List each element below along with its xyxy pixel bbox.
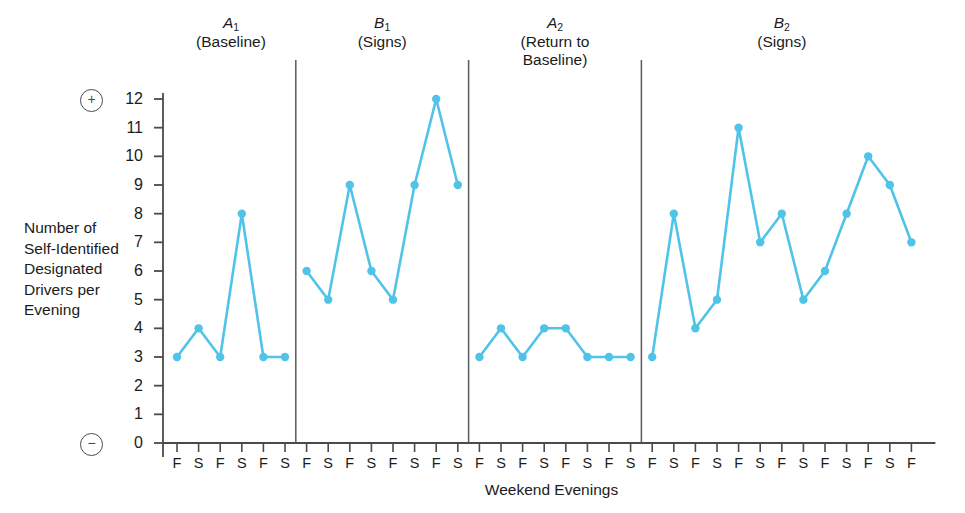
data-point-A2-7 [626, 353, 634, 361]
x-tick-label-20: F [600, 456, 618, 471]
x-tick-label-3: S [233, 456, 251, 471]
data-point-B1-2 [346, 181, 354, 189]
x-tick-label-29: S [794, 456, 812, 471]
x-axis-label: Weekend Evenings [0, 481, 965, 499]
x-tick-label-13: S [449, 456, 467, 471]
data-point-B1-7 [454, 181, 462, 189]
x-tick-label-24: F [686, 456, 704, 471]
x-tick-label-7: S [319, 456, 337, 471]
x-tick-label-6: F [298, 456, 316, 471]
y-tick-label-9: 9 [115, 177, 143, 193]
y-tick-label-1: 1 [115, 406, 143, 422]
y-tick-label-2: 2 [115, 378, 143, 394]
data-point-B1-1 [324, 295, 332, 303]
x-tick-label-33: S [881, 456, 899, 471]
x-tick-label-22: F [643, 456, 661, 471]
x-tick-label-1: S [190, 456, 208, 471]
x-tick-label-18: F [557, 456, 575, 471]
x-tick-label-2: F [211, 456, 229, 471]
data-point-B1-4 [389, 295, 397, 303]
x-tick-label-31: S [838, 456, 856, 471]
data-point-B2-0 [648, 353, 656, 361]
plot-area [0, 0, 965, 513]
x-tick-label-21: S [622, 456, 640, 471]
y-tick-label-10: 10 [115, 148, 143, 164]
y-tick-label-5: 5 [115, 292, 143, 308]
x-tick-label-10: F [384, 456, 402, 471]
x-tick-label-27: S [751, 456, 769, 471]
data-point-A2-4 [562, 324, 570, 332]
y-tick-label-7: 7 [115, 234, 143, 250]
x-tick-label-19: S [578, 456, 596, 471]
x-tick-label-32: F [859, 456, 877, 471]
data-line-A2 [479, 328, 630, 357]
data-point-B2-6 [778, 209, 786, 217]
data-point-A1-0 [173, 353, 181, 361]
data-line-A1 [177, 214, 285, 357]
data-point-B1-6 [432, 95, 440, 103]
x-tick-label-26: F [730, 456, 748, 471]
x-tick-label-8: F [341, 456, 359, 471]
y-tick-label-6: 6 [115, 263, 143, 279]
data-point-B2-4 [734, 123, 742, 131]
y-tick-label-8: 8 [115, 206, 143, 222]
single-subject-abab-line-chart: Number of Self-Identified Designated Dri… [0, 0, 965, 513]
data-point-A2-2 [518, 353, 526, 361]
y-tick-label-12: 12 [115, 91, 143, 107]
x-tick-label-0: F [168, 456, 186, 471]
x-tick-label-11: S [406, 456, 424, 471]
data-point-B2-8 [821, 267, 829, 275]
x-tick-label-12: F [427, 456, 445, 471]
x-tick-label-30: F [816, 456, 834, 471]
data-point-B1-0 [302, 267, 310, 275]
data-point-B2-10 [864, 152, 872, 160]
data-point-B1-3 [367, 267, 375, 275]
data-point-B2-12 [907, 238, 915, 246]
x-tick-label-25: S [708, 456, 726, 471]
data-point-A2-5 [583, 353, 591, 361]
data-point-B2-7 [799, 295, 807, 303]
data-line-B1 [307, 99, 458, 300]
data-point-B2-9 [842, 209, 850, 217]
data-point-A1-4 [259, 353, 267, 361]
data-point-A1-3 [238, 209, 246, 217]
y-tick-label-4: 4 [115, 320, 143, 336]
x-tick-label-16: F [514, 456, 532, 471]
data-line-B2 [652, 128, 911, 357]
x-tick-label-17: S [535, 456, 553, 471]
data-point-B1-5 [410, 181, 418, 189]
data-point-B2-3 [713, 295, 721, 303]
y-tick-label-3: 3 [115, 349, 143, 365]
x-tick-label-4: F [254, 456, 272, 471]
x-tick-label-28: F [773, 456, 791, 471]
data-point-A2-0 [475, 353, 483, 361]
data-point-A1-1 [194, 324, 202, 332]
y-tick-label-11: 11 [115, 120, 143, 136]
data-point-A2-1 [497, 324, 505, 332]
x-tick-label-34: F [902, 456, 920, 471]
data-point-B2-2 [691, 324, 699, 332]
x-tick-label-5: S [276, 456, 294, 471]
data-point-A1-5 [281, 353, 289, 361]
y-tick-label-0: 0 [115, 435, 143, 451]
data-point-A2-6 [605, 353, 613, 361]
x-tick-label-14: F [470, 456, 488, 471]
data-point-A2-3 [540, 324, 548, 332]
data-point-B2-11 [886, 181, 894, 189]
x-tick-label-15: S [492, 456, 510, 471]
data-point-A1-2 [216, 353, 224, 361]
data-point-B2-1 [670, 209, 678, 217]
data-point-B2-5 [756, 238, 764, 246]
x-tick-label-9: S [362, 456, 380, 471]
x-tick-label-23: S [665, 456, 683, 471]
